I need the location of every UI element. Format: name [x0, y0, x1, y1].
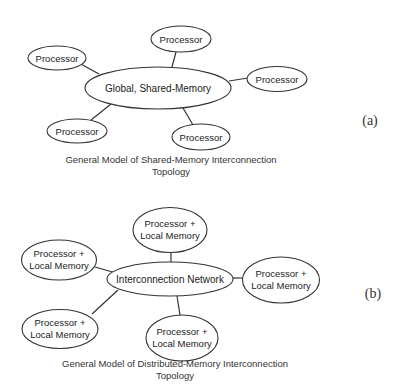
processor-memory-label-line1: Processor +	[35, 317, 86, 328]
processor-memory-label-line1: Processor +	[34, 248, 85, 259]
distributed-memory-diagram: Interconnection Network Processor + Loca…	[22, 208, 382, 382]
processor-memory-label-line2: Local Memory	[30, 329, 90, 340]
processor-memory-label-line2: Local Memory	[29, 260, 89, 271]
processor-memory-node: Processor + Local Memory	[22, 240, 97, 280]
processor-memory-node: Processor + Local Memory	[22, 310, 98, 349]
processor-label: Processor	[160, 34, 203, 45]
caption-line-2: Topology	[156, 370, 194, 381]
processor-memory-node: Processor + Local Memory	[146, 315, 218, 361]
processor-memory-node: Processor + Local Memory	[243, 257, 320, 303]
panel-label-a: (a)	[362, 113, 378, 129]
processor-memory-node: Processor + Local Memory	[133, 208, 207, 253]
connector-bottom-right	[177, 296, 180, 315]
processor-label: Processor	[36, 53, 79, 64]
caption-line-1: General Model of Shared-Memory Interconn…	[65, 154, 276, 165]
caption-line-2: Topology	[152, 166, 190, 177]
interconnection-network-node: Interconnection Network	[107, 262, 233, 296]
processor-node: Processor	[28, 46, 86, 70]
connector-bottom-right	[183, 108, 193, 125]
processor-label: Processor	[180, 132, 223, 143]
interconnection-network-label: Interconnection Network	[116, 274, 225, 285]
connector-bottom-left	[91, 104, 111, 120]
connector-right	[229, 78, 248, 81]
caption-line-1: General Model of Distributed-Memory Inte…	[62, 358, 288, 369]
processor-memory-label-line2: Local Memory	[140, 230, 200, 241]
shared-memory-node: Global, Shared-Memory	[85, 67, 231, 109]
connector-top	[172, 52, 176, 67]
processor-node: Processor	[47, 119, 107, 143]
processor-node: Processor	[151, 26, 211, 52]
processor-memory-label-line2: Local Memory	[152, 338, 212, 349]
processor-memory-label-line2: Local Memory	[251, 280, 311, 291]
processor-label: Processor	[256, 74, 299, 85]
processor-node: Processor	[247, 67, 307, 92]
processor-memory-label-line1: Processor +	[256, 268, 307, 279]
processor-memory-label-line1: Processor +	[157, 326, 208, 337]
connector-bottom-left	[92, 290, 118, 314]
shared-memory-label: Global, Shared-Memory	[105, 83, 211, 94]
processor-node: Processor	[172, 124, 230, 150]
shared-memory-diagram: Global, Shared-Memory Processor Processo…	[28, 26, 378, 177]
figure-canvas: Global, Shared-Memory Processor Processo…	[0, 0, 402, 392]
processor-label: Processor	[56, 126, 99, 137]
processor-memory-label-line1: Processor +	[145, 218, 196, 229]
panel-label-b: (b)	[365, 286, 382, 302]
